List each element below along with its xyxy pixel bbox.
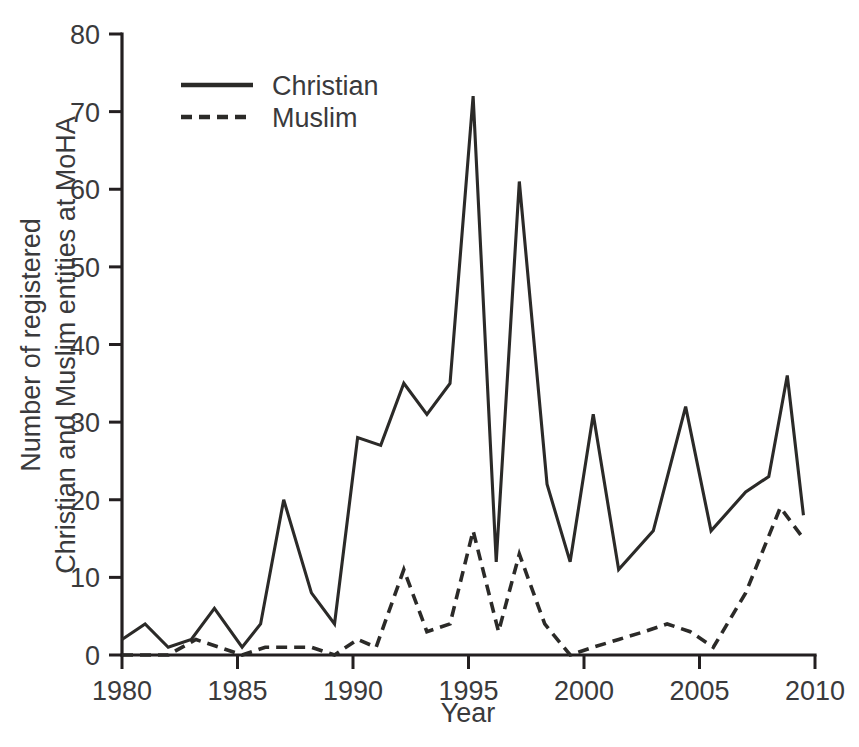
x-axis-title: Year [441,698,496,728]
y-axis-title-line1: Number of registered [16,218,46,472]
legend-label-christian: Christian [272,71,379,101]
y-tick-label-0: 0 [85,641,100,671]
x-tick-label-1990: 1990 [323,676,383,706]
y-axis-title-line2: Christian and Muslim entities at MoHA [51,116,81,574]
x-tick-label-1985: 1985 [207,676,267,706]
legend-label-muslim: Muslim [272,103,358,133]
line-chart: 01020304050607080 1980198519901995200020… [0,0,859,747]
x-tick-label-2010: 2010 [785,676,845,706]
x-tick-label-2005: 2005 [669,676,729,706]
x-tick-label-1980: 1980 [92,676,152,706]
y-tick-label-80: 80 [70,20,100,50]
figure-container: 01020304050607080 1980198519901995200020… [0,0,859,747]
x-tick-label-2000: 2000 [554,676,614,706]
